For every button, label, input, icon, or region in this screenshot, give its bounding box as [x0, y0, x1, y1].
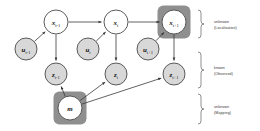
legend-localisation-brace — [198, 10, 204, 38]
node-x_t[interactable]: xt — [104, 10, 128, 34]
node-z_tp1[interactable]: zt+1 — [163, 63, 185, 85]
node-x_tm1[interactable]: xt-1 — [44, 10, 68, 34]
legend-observed-brace — [198, 52, 204, 88]
graphical-model-svg: xt-1xtxt+1ut-1utut+1zt-1ztzt+1m unknown(… — [0, 0, 260, 131]
node-z_t[interactable]: zt — [105, 63, 127, 85]
legend-observed: known(Observed) — [198, 52, 233, 88]
node-x_tp1[interactable]: xt+1 — [162, 10, 186, 34]
node-u_t[interactable]: ut — [77, 38, 99, 60]
node-z_tm1[interactable]: zt-1 — [45, 63, 67, 85]
legend-mapping: unknown(Mapping) — [198, 94, 231, 124]
edge-u_t-to-x_t — [96, 32, 105, 41]
legend-localisation-line1: unknown — [214, 20, 229, 24]
legend-localisation-line2: (Localisation) — [214, 26, 237, 30]
brace-layer: unknown(Localisation)known(Observed)unkn… — [198, 10, 237, 124]
edge-u_tm1-to-x_tm1 — [35, 32, 46, 42]
legend-localisation: unknown(Localisation) — [198, 10, 237, 38]
legend-observed-line1: known — [214, 66, 225, 70]
node-m[interactable]: m — [58, 96, 82, 120]
legend-mapping-brace — [198, 94, 204, 124]
legend-observed-line2: (Observed) — [214, 72, 233, 76]
node-u_tm1[interactable]: ut-1 — [15, 38, 37, 60]
node-label-m: m — [67, 105, 73, 113]
legend-mapping-line1: unknown — [214, 105, 229, 109]
legend-mapping-line2: (Mapping) — [214, 111, 231, 115]
diagram-canvas: xt-1xtxt+1ut-1utut+1zt-1ztzt+1m unknown(… — [0, 0, 260, 131]
node-u_tp1[interactable]: ut+1 — [137, 38, 159, 60]
